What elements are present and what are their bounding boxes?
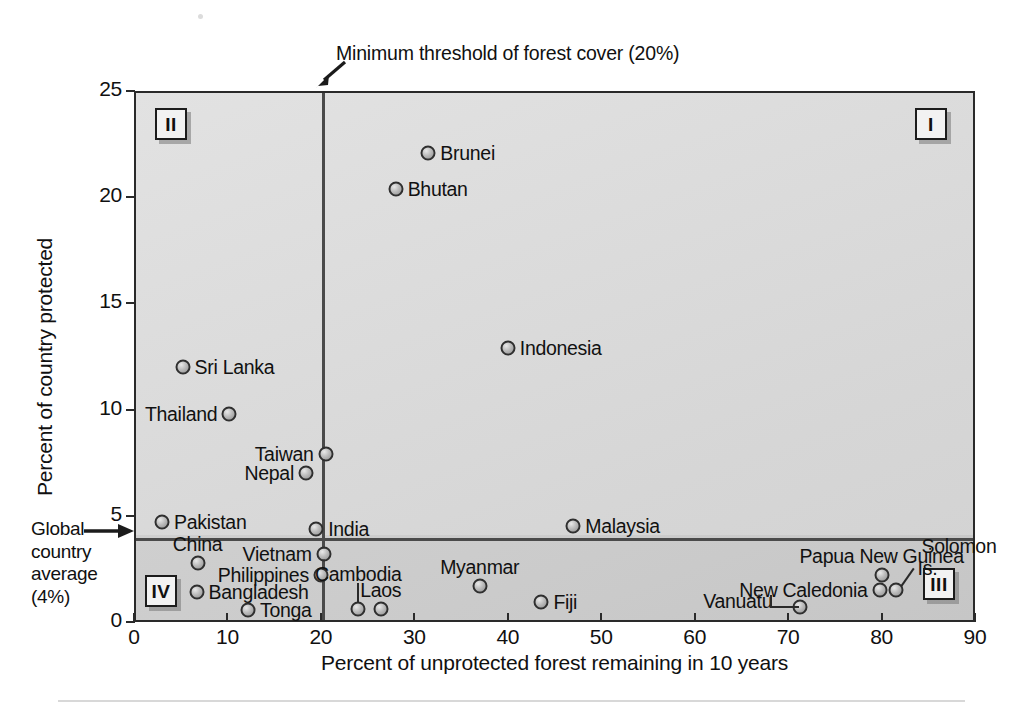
y-tick xyxy=(126,90,135,92)
x-tick xyxy=(787,613,789,622)
y-tick-label: 0 xyxy=(92,608,122,632)
x-tick-label: 80 xyxy=(852,625,912,649)
global-average-arrow-icon xyxy=(84,522,136,540)
global-average-line xyxy=(136,538,973,541)
data-point-pakistan xyxy=(155,515,170,530)
footer-divider xyxy=(58,700,965,702)
data-label-pakistan: Pakistan xyxy=(174,511,246,534)
quadrant-badge-one: I xyxy=(915,108,947,140)
data-point-papua-new-guinea xyxy=(874,568,889,583)
y-tick-label: 10 xyxy=(92,396,122,420)
x-tick xyxy=(694,613,696,622)
x-tick-label: 20 xyxy=(291,625,351,649)
data-label-china: China xyxy=(173,533,222,556)
data-label-india: India xyxy=(328,517,369,540)
y-tick xyxy=(126,302,135,304)
x-tick-label: 60 xyxy=(665,625,725,649)
data-point-india xyxy=(309,521,324,536)
data-label-sri-lanka: Sri Lanka xyxy=(195,356,275,379)
data-point-myanmar xyxy=(472,578,487,593)
leader-line xyxy=(357,583,359,603)
data-label-malaysia: Malaysia xyxy=(585,515,660,538)
global-average-line-4: (4%) xyxy=(31,586,131,609)
x-tick xyxy=(226,613,228,622)
data-point-china xyxy=(190,555,205,570)
threshold-arrow-icon xyxy=(313,60,347,90)
data-point-taiwan xyxy=(318,447,333,462)
data-point-new-caledonia xyxy=(872,583,887,598)
global-average-line-3: average xyxy=(31,563,131,586)
data-label-fiji: Fiji xyxy=(553,590,577,613)
data-label-bhutan: Bhutan xyxy=(408,177,468,200)
data-point-indonesia xyxy=(500,341,515,356)
x-axis-title: Percent of unprotected forest remaining … xyxy=(134,651,975,675)
x-tick-label: 90 xyxy=(945,625,1005,649)
data-label-nepal: Nepal xyxy=(244,462,293,485)
data-point-fiji xyxy=(534,594,549,609)
data-label-solomon-is-line-2: Is. xyxy=(918,557,938,580)
y-tick-label: 25 xyxy=(92,77,122,101)
x-tick-label: 70 xyxy=(758,625,818,649)
y-tick xyxy=(126,515,135,517)
y-tick xyxy=(126,409,135,411)
x-tick xyxy=(600,613,602,622)
global-average-line-2: country xyxy=(31,541,131,564)
data-point-cambodia xyxy=(351,602,366,617)
x-tick-label: 40 xyxy=(478,625,538,649)
data-point-tonga xyxy=(241,603,256,618)
data-point-malaysia xyxy=(566,519,581,534)
x-tick-label: 50 xyxy=(571,625,631,649)
x-tick xyxy=(881,613,883,622)
data-label-indonesia: Indonesia xyxy=(520,337,602,360)
data-point-vietnam xyxy=(316,547,331,562)
leader-line xyxy=(771,606,799,608)
scatter-plot-figure: 01020304050607080900510152025 Percent of… xyxy=(0,0,1023,713)
data-point-sri-lanka xyxy=(175,360,190,375)
data-label-laos: Laos xyxy=(360,579,401,602)
quadrant-badge-four: IV xyxy=(145,575,177,607)
data-label-tonga: Tonga xyxy=(260,599,312,622)
data-label-thailand: Thailand xyxy=(145,402,217,425)
data-label-myanmar: Myanmar xyxy=(440,556,519,579)
data-label-vietnam: Vietnam xyxy=(243,543,312,566)
threshold-annotation-text: Minimum threshold of forest cover (20%) xyxy=(336,42,679,65)
y-tick-label: 20 xyxy=(92,183,122,207)
data-point-laos xyxy=(373,602,388,617)
decorative-speck xyxy=(198,14,203,19)
x-tick xyxy=(413,613,415,622)
y-tick xyxy=(126,196,135,198)
data-point-brunei xyxy=(421,145,436,160)
quadrant-badge-two: II xyxy=(155,108,187,140)
data-label-brunei: Brunei xyxy=(440,141,495,164)
data-label-vanuatu: Vanuatu xyxy=(703,590,772,613)
data-point-bangladesh xyxy=(189,585,204,600)
data-point-nepal xyxy=(298,466,313,481)
x-tick xyxy=(507,613,509,622)
x-tick-label: 30 xyxy=(384,625,444,649)
y-tick xyxy=(126,621,135,623)
x-tick xyxy=(320,613,322,622)
x-tick xyxy=(974,613,976,622)
data-point-thailand xyxy=(222,406,237,421)
data-label-solomon-is-line-1: Solomon xyxy=(922,535,997,558)
data-point-bhutan xyxy=(388,181,403,196)
y-tick-label: 15 xyxy=(92,289,122,313)
x-tick-label: 10 xyxy=(197,625,257,649)
